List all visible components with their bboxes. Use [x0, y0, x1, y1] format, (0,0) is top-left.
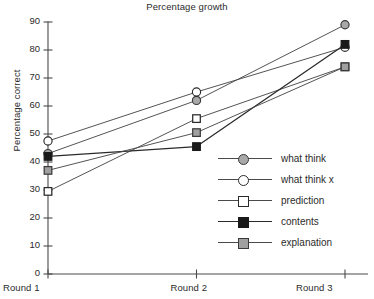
legend-label: explanation [274, 237, 332, 248]
legend-item-what-think-x[interactable]: what think x [216, 169, 366, 190]
square-gray-marker-icon [238, 238, 249, 249]
legend-item-prediction[interactable]: prediction [216, 190, 366, 211]
legend-item-explanation[interactable]: explanation [216, 232, 366, 253]
legend-swatch-what-think-x [216, 173, 274, 187]
legend-label: contents [274, 216, 319, 227]
circle-white-marker-icon [238, 175, 249, 186]
chart-legend: what think what think x prediction conte… [216, 148, 366, 253]
legend-swatch-contents [216, 215, 274, 229]
circle-gray-marker-icon [238, 154, 249, 165]
square-black-marker-icon [238, 217, 249, 228]
legend-item-contents[interactable]: contents [216, 211, 366, 232]
legend-label: what think x [274, 174, 334, 185]
legend-swatch-what-think [216, 152, 274, 166]
legend-swatch-prediction [216, 194, 274, 208]
square-white-marker-icon [238, 196, 249, 207]
chart-container: Percentage growth Percentage correct 010… [0, 0, 374, 299]
legend-item-what-think[interactable]: what think [216, 148, 366, 169]
legend-label: prediction [274, 195, 324, 206]
legend-swatch-explanation [216, 236, 274, 250]
legend-label: what think [274, 153, 326, 164]
